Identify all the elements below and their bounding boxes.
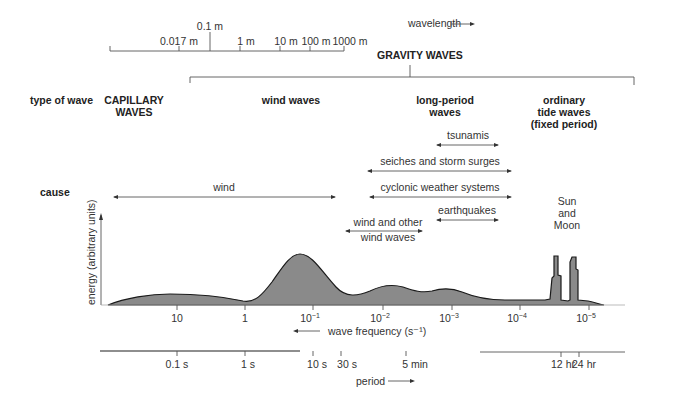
period-tick-label: 0.1 s [166, 358, 189, 370]
wave-energy-spectrum-diagram: wavelength 0.1 m 0.017 m 1 m 10 m 100 m … [0, 0, 685, 396]
gravity-waves-label: GRAVITY WAVES [377, 49, 463, 61]
period-tick-label: 24 hr [572, 358, 596, 370]
period-tick-label: 10 s [307, 358, 327, 370]
wind-and-other-label: wind waves [360, 231, 415, 243]
frequency-axis-label: wave frequency (s⁻¹) [327, 325, 426, 337]
arrow-left-icon [113, 195, 118, 199]
frequency-tick-label: 10−5 [576, 312, 596, 324]
frequency-axis: 10 1 10−1 10−2 10−3 10−4 10−5 wave frequ… [171, 305, 596, 337]
arrow-left-icon [293, 329, 298, 333]
gravity-waves-bracket: GRAVITY WAVES [190, 49, 634, 85]
arrow-right-icon [470, 22, 475, 26]
wavelength-tick-label: 0.017 m [160, 35, 198, 47]
long-period-waves-label: long-period [416, 94, 474, 106]
seiches-label: seiches and storm surges [380, 155, 500, 167]
period-label: period [356, 375, 385, 387]
wavelength-tick-label: 1 m [237, 35, 255, 47]
earthquakes-label: earthquakes [438, 204, 496, 216]
energy-axis-label: energy (arbitrary units) [85, 199, 97, 305]
period-tick-label: 30 s [337, 358, 357, 370]
frequency-tick-label: 10−2 [370, 312, 390, 324]
period-tick-label: 5 min [402, 358, 428, 370]
tide-waves-label: (fixed period) [531, 118, 598, 130]
arrow-right-icon [494, 218, 499, 222]
frequency-tick-label: 10−3 [439, 312, 459, 324]
sun-moon-label: and [558, 207, 576, 219]
wave-type-labels: CAPILLARY WAVES wind waves long-period w… [104, 94, 597, 130]
frequency-tick-label: 1 [242, 312, 248, 324]
wind-waves-label: wind waves [261, 94, 321, 106]
arrow-left-icon [436, 143, 441, 147]
energy-axis: energy (arbitrary units) [85, 199, 103, 305]
arrow-left-icon [345, 229, 350, 233]
frequency-tick-label: 10 [171, 312, 183, 324]
wavelength-scale: wavelength 0.1 m 0.017 m 1 m 10 m 100 m … [110, 17, 475, 51]
tide-waves-label: tide waves [537, 106, 590, 118]
wind-label: wind [212, 181, 235, 193]
wavelength-tick-label: 1000 m [332, 35, 367, 47]
long-period-waves-label: waves [428, 106, 461, 118]
arrow-up-icon [99, 213, 103, 220]
wavelength-tick-label: 0.1 m [197, 20, 224, 32]
type-of-wave-label: type of wave [30, 94, 93, 106]
arrow-left-icon [367, 169, 372, 173]
arrow-right-icon [507, 195, 512, 199]
wavelength-tick-label: 100 m [301, 35, 330, 47]
arrow-left-icon [436, 218, 441, 222]
wind-and-other-label: wind and other [353, 216, 423, 228]
cyclonic-label: cyclonic weather systems [380, 181, 499, 193]
cause-arrows: tsunamis seiches and storm surges cyclon… [113, 129, 580, 243]
period-tick-label: 1 s [241, 358, 255, 370]
cause-label: cause [40, 186, 70, 198]
capillary-waves-label: CAPILLARY [104, 94, 164, 106]
frequency-tick-label: 10−1 [300, 312, 320, 324]
wavelength-tick-label: 10 m [274, 35, 298, 47]
period-scale: 0.1 s 1 s 10 s 30 s 5 min 12 hr 24 hr pe… [100, 351, 625, 387]
frequency-tick-label: 10−4 [507, 312, 527, 324]
sun-moon-label: Sun [558, 195, 577, 207]
arrow-right-icon [331, 195, 336, 199]
arrow-right-icon [507, 169, 512, 173]
tide-waves-label: ordinary [543, 94, 585, 106]
arrow-right-icon [418, 229, 423, 233]
arrow-right-icon [494, 143, 499, 147]
arrow-right-icon [410, 379, 415, 383]
arrow-left-icon [369, 195, 374, 199]
sun-moon-label: Moon [554, 219, 580, 231]
capillary-waves-label: WAVES [115, 106, 152, 118]
tsunamis-label: tsunamis [447, 129, 489, 141]
energy-spectrum-area [101, 254, 625, 305]
wavelength-label: wavelength [407, 17, 461, 29]
